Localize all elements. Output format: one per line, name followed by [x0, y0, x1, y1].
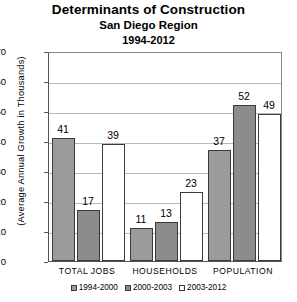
legend-swatch-icon	[125, 285, 131, 291]
bar-value-label: 41	[46, 124, 81, 135]
plot-area: 411739111323375249	[48, 52, 282, 262]
y-tick-label: 30	[0, 167, 6, 177]
bar-value-label: 49	[252, 100, 287, 111]
bar	[258, 114, 281, 261]
chart-legend: 1994-20002000-20032003-2012	[0, 283, 297, 292]
y-tick-mark	[44, 262, 48, 263]
y-tick-label: 70	[0, 47, 6, 57]
bar-value-label: 17	[71, 196, 106, 207]
x-category-label: HOUSEHOLDS	[126, 266, 204, 276]
bar	[102, 144, 125, 261]
legend-item[interactable]: 1994-2000	[71, 283, 118, 292]
bar	[155, 222, 178, 261]
chart-title-block: Determinants of Construction San Diego R…	[0, 2, 297, 48]
chart-subtitle: San Diego Region	[0, 18, 297, 33]
bar	[180, 192, 203, 261]
gridline	[49, 83, 281, 84]
bar	[208, 150, 231, 261]
x-category-label: POPULATION	[204, 266, 282, 276]
legend-item[interactable]: 2000-2003	[125, 283, 172, 292]
x-category-label: TOTAL JOBS	[48, 266, 126, 276]
bar	[233, 105, 256, 261]
legend-label: 1994-2000	[79, 283, 118, 292]
y-tick-label: 10	[0, 227, 6, 237]
chart-title: Determinants of Construction	[0, 2, 297, 18]
bar-chart: Determinants of Construction San Diego R…	[0, 0, 297, 302]
y-axis-title: (Average Annual Growth in Thousands)	[16, 36, 26, 246]
bar	[130, 228, 153, 261]
y-tick-label: 20	[0, 197, 6, 207]
y-tick-label: 50	[0, 107, 6, 117]
y-tick-label: 0	[0, 257, 6, 267]
chart-period: 1994-2012	[0, 33, 297, 48]
legend-swatch-icon	[71, 285, 77, 291]
bar-value-label: 37	[202, 136, 237, 147]
legend-label: 2000-2003	[133, 283, 172, 292]
bar-value-label: 39	[96, 130, 131, 141]
legend-label: 2003-2012	[187, 283, 226, 292]
legend-swatch-icon	[179, 285, 185, 291]
bar-value-label: 13	[149, 208, 184, 219]
legend-item[interactable]: 2003-2012	[179, 283, 226, 292]
bar	[77, 210, 100, 261]
bar-value-label: 23	[174, 178, 209, 189]
y-tick-label: 60	[0, 77, 6, 87]
y-tick-label: 40	[0, 137, 6, 147]
